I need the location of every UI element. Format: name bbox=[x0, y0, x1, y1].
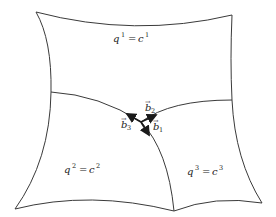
top-edge bbox=[36, 12, 232, 26]
svg-text:2: 2 bbox=[151, 107, 155, 115]
svg-text:q: q bbox=[113, 33, 119, 44]
label-b3: → b 3 bbox=[121, 115, 131, 132]
divider-left bbox=[51, 92, 141, 122]
bottom-edge-left bbox=[15, 200, 174, 211]
svg-text:c: c bbox=[138, 33, 144, 44]
label-surface-3: q 3 = c 3 bbox=[187, 164, 223, 177]
coordinate-surfaces-diagram: q 1 = c 1 q 2 = c 2 q 3 = c 3 → b 2 → b … bbox=[0, 0, 276, 217]
svg-text:1: 1 bbox=[145, 31, 149, 39]
svg-text:3: 3 bbox=[219, 164, 223, 172]
svg-text:=: = bbox=[79, 164, 87, 175]
svg-text:=: = bbox=[128, 33, 136, 44]
svg-text:q: q bbox=[64, 164, 70, 175]
svg-text:2: 2 bbox=[72, 162, 76, 170]
svg-text:1: 1 bbox=[121, 31, 125, 39]
svg-text:c: c bbox=[89, 164, 95, 175]
label-b1: → b 1 bbox=[153, 117, 163, 134]
svg-text:c: c bbox=[212, 166, 218, 177]
svg-text:q: q bbox=[187, 166, 193, 177]
svg-text:3: 3 bbox=[127, 124, 131, 132]
svg-text:1: 1 bbox=[159, 126, 163, 134]
svg-text:3: 3 bbox=[195, 164, 199, 172]
vector-b1-arrow bbox=[141, 122, 149, 135]
svg-text:2: 2 bbox=[96, 162, 100, 170]
left-edge-upper bbox=[36, 12, 51, 92]
right-edge-upper bbox=[231, 15, 232, 100]
left-edge-lower bbox=[15, 92, 51, 209]
label-surface-1: q 1 = c 1 bbox=[113, 31, 149, 44]
bottom-edge-right bbox=[174, 200, 262, 211]
svg-text:=: = bbox=[202, 166, 210, 177]
label-b2: → b 2 bbox=[145, 98, 155, 115]
vector-b3-arrow bbox=[127, 114, 141, 122]
right-edge-lower bbox=[232, 100, 262, 203]
divider-down bbox=[141, 122, 174, 211]
label-surface-2: q 2 = c 2 bbox=[64, 162, 100, 175]
